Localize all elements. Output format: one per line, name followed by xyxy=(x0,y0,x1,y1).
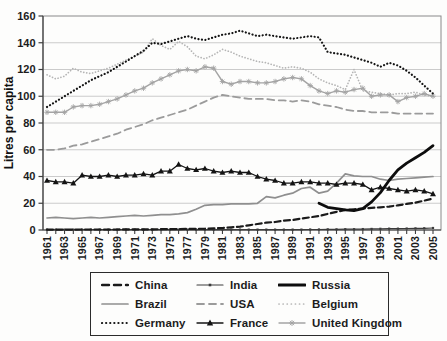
x-tick-label: 1981 xyxy=(216,236,228,260)
beer-consumption-chart: Litres per capita 0204060801001201401601… xyxy=(0,0,447,341)
legend-item-united-kingdom: United Kingdom xyxy=(278,317,390,329)
y-tick-label: 120 xyxy=(17,63,35,75)
india-point-marker xyxy=(423,227,425,229)
x-tick-label: 1969 xyxy=(111,236,123,260)
india-point-marker xyxy=(353,228,355,230)
x-tick-label: 1967 xyxy=(93,236,105,260)
x-tick-label: 1999 xyxy=(374,236,386,260)
series-line-france xyxy=(47,165,433,194)
y-tick-label: 160 xyxy=(17,10,35,22)
france-point-marker xyxy=(141,171,147,176)
legend-swatch-china xyxy=(101,279,129,291)
india-point-marker xyxy=(432,227,434,229)
legend-item-china: China xyxy=(101,279,196,291)
india-point-marker xyxy=(406,227,408,229)
legend-item-usa: USA xyxy=(196,298,278,310)
india-point-marker xyxy=(300,228,302,230)
legend-label-brazil: Brazil xyxy=(135,298,167,310)
legend-label-china: China xyxy=(135,279,167,291)
india-point-marker xyxy=(370,228,372,230)
india-point-marker xyxy=(335,228,337,230)
square-marker-icon xyxy=(209,284,212,287)
india-point-marker xyxy=(397,228,399,230)
legend-item-india: India xyxy=(196,279,278,291)
india-point-marker xyxy=(379,228,381,230)
legend-swatch-united-kingdom xyxy=(278,317,306,329)
legend-label-india: India xyxy=(230,279,257,291)
x-tick-label: 1973 xyxy=(146,236,158,260)
france-point-marker xyxy=(44,177,50,182)
legend-swatch-india xyxy=(196,279,224,291)
x-tick-label: 1961 xyxy=(41,236,53,260)
india-point-marker xyxy=(230,228,232,230)
india-point-marker xyxy=(265,228,267,230)
x-tick-label: 1995 xyxy=(339,236,351,260)
y-tick-label: 140 xyxy=(17,37,35,49)
legend-swatch-germany xyxy=(101,317,129,329)
x-tick-label: 1993 xyxy=(322,236,334,260)
x-tick-label: 1989 xyxy=(286,236,298,260)
x-tick-label: 2001 xyxy=(392,236,404,260)
legend-label-russia: Russia xyxy=(312,279,350,291)
india-point-marker xyxy=(362,228,364,230)
x-tick-label: 1983 xyxy=(234,236,246,260)
legend-item-russia: Russia xyxy=(278,279,390,291)
y-tick-label: 80 xyxy=(23,117,35,129)
legend: ChinaIndiaRussiaBrazilUSABelgiumGermanyF… xyxy=(90,272,389,336)
legend-label-france: France xyxy=(230,317,268,329)
x-tick-label: 1963 xyxy=(58,236,70,260)
legend-item-germany: Germany xyxy=(101,317,196,329)
india-point-marker xyxy=(283,228,285,230)
legend-label-germany: Germany xyxy=(135,317,186,329)
france-point-marker xyxy=(105,172,111,177)
legend-item-france: France xyxy=(196,317,278,329)
x-tick-label: 1991 xyxy=(304,236,316,260)
legend-item-belgium: Belgium xyxy=(278,298,390,310)
legend-label-belgium: Belgium xyxy=(312,298,358,310)
legend-swatch-brazil xyxy=(101,298,129,310)
france-point-marker xyxy=(79,172,85,177)
x-tick-label: 1977 xyxy=(181,236,193,260)
y-tick-label: 60 xyxy=(23,144,35,156)
india-point-marker xyxy=(327,228,329,230)
france-point-marker xyxy=(228,168,234,173)
legend-swatch-belgium xyxy=(278,298,306,310)
x-tick-label: 1979 xyxy=(199,236,211,260)
series-line-belgium xyxy=(47,39,433,97)
x-tick-label: 2003 xyxy=(409,236,421,260)
india-point-marker xyxy=(292,228,294,230)
india-point-marker xyxy=(414,227,416,229)
y-axis-title: Litres per capita xyxy=(2,76,16,169)
x-tick-label: 1975 xyxy=(164,236,176,260)
y-tick-label: 0 xyxy=(29,224,35,236)
india-point-marker xyxy=(388,228,390,230)
legend-item-brazil: Brazil xyxy=(101,298,196,310)
y-tick-label: 20 xyxy=(23,197,35,209)
x-tick-label: 1965 xyxy=(76,236,88,260)
india-point-marker xyxy=(274,228,276,230)
france-point-marker xyxy=(176,161,182,166)
legend-swatch-france xyxy=(196,317,224,329)
france-point-marker xyxy=(412,187,418,192)
x-tick-label: 1987 xyxy=(269,236,281,260)
legend-label-usa: USA xyxy=(230,298,255,310)
y-tick-label: 40 xyxy=(23,170,35,182)
india-point-marker xyxy=(256,228,258,230)
india-point-marker xyxy=(344,228,346,230)
india-point-marker xyxy=(248,228,250,230)
india-point-marker xyxy=(239,228,241,230)
india-point-marker xyxy=(309,228,311,230)
x-tick-label: 1997 xyxy=(357,236,369,260)
x-tick-label: 1971 xyxy=(129,236,141,260)
y-tick-label: 100 xyxy=(17,90,35,102)
x-tick-label: 2005 xyxy=(427,236,439,260)
france-point-marker xyxy=(202,165,208,170)
legend-swatch-usa xyxy=(196,298,224,310)
x-tick-label: 1985 xyxy=(251,236,263,260)
legend-swatch-russia xyxy=(278,279,306,291)
legend-label-united-kingdom: United Kingdom xyxy=(312,317,402,329)
india-point-marker xyxy=(318,228,320,230)
